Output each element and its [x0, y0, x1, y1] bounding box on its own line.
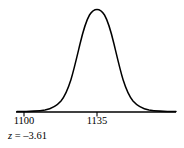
normal-distribution-figure: 1100 1135 z = –3.61	[0, 0, 184, 148]
bell-curve-path	[17, 10, 176, 112]
z-score-annotation: z = –3.61	[8, 130, 47, 141]
x-tick-label-1100: 1100	[14, 115, 35, 126]
z-value: –3.61	[23, 130, 47, 141]
x-tick-label-1135: 1135	[87, 115, 108, 126]
z-equals-sign: =	[12, 130, 23, 141]
